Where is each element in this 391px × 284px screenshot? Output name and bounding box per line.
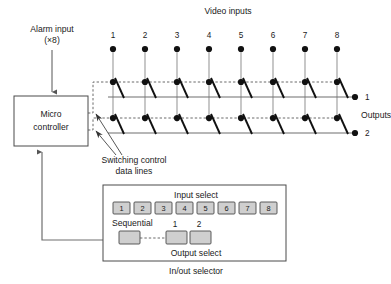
sequential-button[interactable] (119, 231, 140, 244)
input-select-button-8-label: 8 (266, 204, 270, 213)
video-input-terminal-3 (174, 46, 180, 52)
output-select-number-2: 2 (197, 220, 202, 229)
input-select-button-6[interactable]: 6 (218, 202, 235, 214)
output-number-1: 1 (365, 93, 370, 102)
switch-lever-r1-c1 (115, 78, 124, 98)
output-number-2: 2 (365, 129, 370, 138)
alarm-input-label-line2: (×8) (44, 35, 60, 45)
switch-lever-r2-c1 (115, 114, 124, 134)
switching-control-leader-2 (96, 131, 116, 155)
input-select-button-4-label: 4 (182, 204, 186, 213)
output-select-button-1[interactable] (166, 231, 187, 244)
switch-lever-r1-c7 (307, 78, 316, 98)
video-input-number-6: 6 (271, 31, 276, 40)
input-select-button-3-label: 3 (161, 204, 165, 213)
micro-controller-label-line1: Micro (40, 109, 61, 119)
input-select-button-7[interactable]: 7 (239, 202, 256, 214)
switch-lever-r1-c4 (211, 78, 220, 98)
video-input-number-4: 4 (207, 31, 212, 40)
switch-lever-r2-c3 (179, 114, 188, 134)
switch-lever-r2-c8 (339, 114, 348, 134)
switch-lever-r1-c3 (179, 78, 188, 98)
input-select-button-4[interactable]: 4 (176, 202, 193, 214)
output-select-button-2[interactable] (190, 231, 211, 244)
input-select-button-5[interactable]: 5 (197, 202, 214, 214)
switching-control-label-line1: Switching control (102, 155, 167, 165)
video-input-number-1: 1 (111, 31, 116, 40)
selector-feedback-wire (42, 152, 103, 240)
outputs-label: Outputs (361, 110, 391, 120)
input-select-button-2-label: 2 (140, 204, 144, 213)
video-input-terminal-8 (334, 46, 340, 52)
video-input-terminal-7 (302, 46, 308, 52)
input-select-button-3[interactable]: 3 (155, 202, 172, 214)
micro-controller-label-line2: controller (33, 122, 68, 132)
input-select-button-7-label: 7 (245, 204, 249, 213)
diagram-canvas: Video inputs Alarm input (×8) Micro cont… (0, 0, 391, 284)
video-matrix-diagram: Video inputs Alarm input (×8) Micro cont… (0, 0, 391, 284)
output-select-label: Output select (171, 248, 222, 258)
switch-lever-r1-c2 (147, 78, 156, 98)
switch-lever-r1-c8 (339, 78, 348, 98)
switch-lever-r2-c4 (211, 114, 220, 134)
video-input-terminal-4 (206, 46, 212, 52)
video-input-number-7: 7 (303, 31, 308, 40)
output-terminal-1 (352, 94, 358, 100)
video-input-number-3: 3 (175, 31, 180, 40)
input-select-button-1[interactable]: 1 (113, 202, 130, 214)
video-input-terminal-6 (270, 46, 276, 52)
video-input-terminal-2 (142, 46, 148, 52)
switching-control-label-line2: data lines (116, 166, 153, 176)
switch-lever-r2-c7 (307, 114, 316, 134)
alarm-input-label-line1: Alarm input (30, 24, 74, 34)
input-select-button-6-label: 6 (224, 204, 228, 213)
sequential-label: Sequential (112, 218, 153, 228)
video-input-number-8: 8 (335, 31, 340, 40)
micro-controller-box (14, 96, 88, 146)
switch-lever-r1-c6 (275, 78, 284, 98)
switch-lever-r1-c5 (243, 78, 252, 98)
input-select-button-8[interactable]: 8 (260, 202, 277, 214)
video-input-terminal-5 (238, 46, 244, 52)
video-input-number-2: 2 (143, 31, 148, 40)
switch-lever-r2-c5 (243, 114, 252, 134)
input-select-button-1-label: 1 (119, 204, 123, 213)
input-select-button-2[interactable]: 2 (134, 202, 151, 214)
switch-lever-r2-c6 (275, 114, 284, 134)
switch-lever-r2-c2 (147, 114, 156, 134)
input-select-label: Input select (174, 190, 219, 200)
video-inputs-title: Video inputs (204, 6, 251, 16)
output-terminal-2 (352, 130, 358, 136)
output-select-number-1: 1 (173, 220, 178, 229)
input-select-button-5-label: 5 (203, 204, 207, 213)
video-input-terminal-1 (110, 46, 116, 52)
video-input-number-5: 5 (239, 31, 244, 40)
inout-selector-caption: In/out selector (169, 266, 223, 276)
